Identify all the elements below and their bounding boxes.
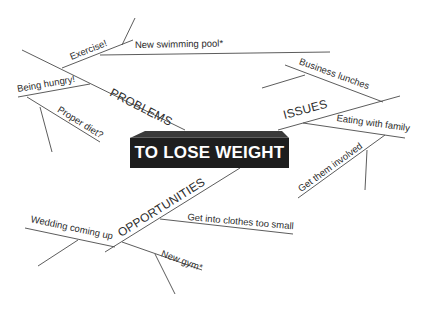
center-node-label: TO LOSE WEIGHT [135,143,285,163]
center-box-bevel [130,131,289,138]
line-proper-diet-twig [40,107,52,152]
line-business-lunches-twig [262,75,305,88]
line-get-them-involved [298,135,385,198]
line-opportunities [105,168,240,252]
line-wedding-twig [38,240,78,266]
line-get-them-involved-twig [365,150,367,190]
line-exercise-twig [122,18,135,45]
mind-map-canvas: TO LOSE WEIGHT PROBLEMS Exercise! New sw… [0,0,427,314]
node-new-swimming-pool[interactable]: New swimming pool* [135,38,223,49]
center-node[interactable]: TO LOSE WEIGHT [130,138,289,168]
line-proper-diet [27,97,100,142]
line-swimming-pool [100,52,330,55]
